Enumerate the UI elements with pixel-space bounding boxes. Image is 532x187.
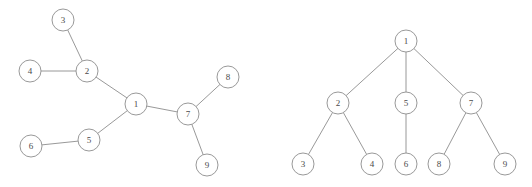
- graph-node-label: 1: [134, 99, 139, 109]
- graph-edge: [68, 30, 83, 61]
- graph-node[interactable]: 5: [78, 129, 100, 151]
- left-graph-nodes: 123456789: [19, 9, 239, 176]
- graph-node[interactable]: 6: [20, 135, 42, 157]
- graph-node-label: 9: [205, 160, 210, 170]
- left-graph-edges: [41, 30, 220, 155]
- graph-node-label: 4: [370, 159, 375, 169]
- graph-node[interactable]: 3: [292, 153, 314, 175]
- graph-edge: [414, 49, 463, 96]
- graph-node-label: 3: [301, 159, 306, 169]
- graph-node-label: 2: [85, 66, 90, 76]
- graph-edge: [42, 141, 78, 145]
- graph-node-label: 2: [336, 98, 341, 108]
- figure-root: 123456789125734689: [0, 0, 532, 187]
- graph-node[interactable]: 7: [177, 103, 199, 125]
- graph-node-label: 8: [437, 159, 442, 169]
- graph-node[interactable]: 4: [361, 153, 383, 175]
- graph-edge: [98, 111, 128, 134]
- graph-node[interactable]: 7: [460, 92, 482, 114]
- nodes-layer: 123456789125734689: [19, 9, 516, 176]
- graph-node[interactable]: 4: [19, 60, 41, 82]
- graph-edge: [346, 48, 398, 95]
- graph-node-label: 9: [503, 159, 508, 169]
- graph-node[interactable]: 8: [428, 153, 450, 175]
- graph-node-label: 6: [404, 159, 409, 169]
- graph-node-label: 5: [87, 135, 92, 145]
- graph-node[interactable]: 1: [395, 30, 417, 52]
- graph-edge: [147, 106, 177, 112]
- graph-node-label: 5: [404, 98, 409, 108]
- graph-node-label: 6: [29, 141, 34, 151]
- graph-node[interactable]: 6: [395, 153, 417, 175]
- graph-node[interactable]: 2: [76, 60, 98, 82]
- graph-node[interactable]: 3: [52, 9, 74, 31]
- edges-layer: [41, 30, 500, 155]
- graph-node[interactable]: 8: [217, 66, 239, 88]
- graph-node-label: 4: [28, 66, 33, 76]
- graph-edge: [343, 113, 366, 155]
- graph-node[interactable]: 9: [196, 154, 218, 176]
- graph-node[interactable]: 9: [494, 153, 516, 175]
- graph-node[interactable]: 5: [395, 92, 417, 114]
- graph-edge: [96, 77, 127, 98]
- graph-node-label: 7: [186, 109, 191, 119]
- graph-edge: [192, 124, 203, 154]
- graph-node-label: 1: [404, 36, 409, 46]
- graph-canvas: 123456789125734689: [0, 0, 532, 187]
- graph-edge: [308, 113, 332, 155]
- graph-node-label: 3: [61, 15, 66, 25]
- graph-edge: [444, 113, 466, 155]
- graph-node-label: 7: [469, 98, 474, 108]
- graph-node[interactable]: 2: [327, 92, 349, 114]
- graph-edge: [476, 113, 499, 155]
- right-graph-nodes: 125734689: [292, 30, 516, 175]
- graph-node-label: 8: [226, 72, 231, 82]
- graph-node[interactable]: 1: [125, 93, 147, 115]
- graph-edge: [196, 84, 220, 106]
